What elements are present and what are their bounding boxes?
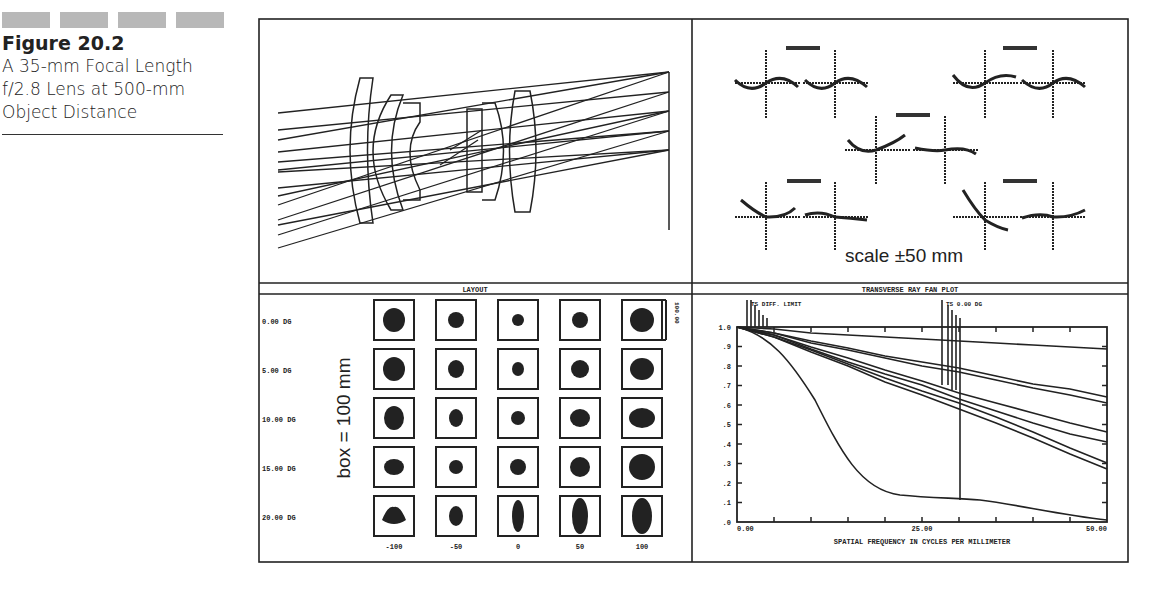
spot-row-label: 15.00 DG [262, 465, 296, 473]
spot-row-label: 5.00 DG [262, 367, 291, 375]
mtf-ticks [737, 327, 1107, 522]
y-tick: .7 [723, 382, 731, 390]
spot-column-labels: -100 -50 0 50 100 [386, 543, 649, 551]
spot-box-annotation: box = 100 mm [333, 358, 354, 479]
mtf-chart: 1.0 .9 .8 .7 .6 .5 .4 .3 .2 .1 .0 0.00 2… [718, 300, 1107, 546]
spot-row-labels: 0.00 DG 5.00 DG 10.00 DG 15.00 DG 20.00 … [262, 318, 296, 522]
x-tick: 25.00 [911, 525, 932, 533]
y-tick: .1 [723, 499, 731, 507]
layout-panel-title: LAYOUT [462, 286, 487, 294]
mtf-legend-right: TS 0.00 DG [946, 301, 982, 308]
y-tick: .6 [723, 402, 731, 410]
mtf-y-tick-labels: 1.0 .9 .8 .7 .6 .5 .4 .3 .2 .1 .0 [718, 324, 731, 527]
mtf-x-axis-label: SPATIAL FREQUENCY IN CYCLES PER MILLIMET… [834, 538, 1011, 546]
spot-row-label: 10.00 DG [262, 416, 296, 424]
y-tick: .5 [723, 421, 731, 429]
spot-col-label: 50 [576, 543, 584, 551]
outer-frame [259, 19, 1128, 562]
mtf-x-tick-labels: 0.00 25.00 50.00 [737, 525, 1107, 533]
y-tick: .8 [723, 363, 731, 371]
mtf-curves [737, 300, 1107, 520]
y-tick: .9 [723, 343, 731, 351]
y-tick: .4 [723, 441, 731, 449]
y-tick: .2 [723, 480, 731, 488]
y-tick: 1.0 [718, 324, 731, 332]
ray-fan-plots [735, 50, 1086, 250]
spot-col-label: 0 [516, 543, 520, 551]
y-tick: .0 [723, 519, 731, 527]
spot-row-label: 0.00 DG [262, 318, 291, 326]
lens-layout-diagram [278, 72, 669, 248]
spot-row-label: 20.00 DG [262, 514, 296, 522]
spot-col-label: -50 [450, 543, 463, 551]
y-tick: .3 [723, 460, 731, 468]
spot-blobs [382, 308, 655, 534]
spot-side-label: 100.00 [673, 302, 680, 324]
x-tick: 50.00 [1086, 525, 1107, 533]
spot-col-label: 100 [636, 543, 649, 551]
ray-fan-scale-annotation: scale ±50 mm [845, 245, 963, 266]
ray-fan-panel-title: TRANSVERSE RAY FAN PLOT [862, 286, 959, 294]
spot-col-label: -100 [386, 543, 403, 551]
ray-fan-labels [786, 46, 1037, 183]
mtf-legend-left: TS DIFF. LIMIT [751, 301, 802, 308]
x-tick: 0.00 [737, 525, 754, 533]
figure-panels: LAYOUT scale ±50 mm TRANSVERSE RAY FAN P… [0, 0, 1164, 600]
